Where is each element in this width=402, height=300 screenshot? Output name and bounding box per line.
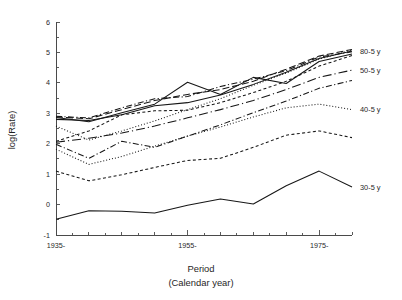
y-axis-title: log(Rate) xyxy=(6,111,17,150)
chart-figure: 6543210-1 1935-1955-1975- 80-5 y50-5 y40… xyxy=(0,0,402,300)
data-series-group xyxy=(56,49,352,219)
series-line-75-5-y xyxy=(56,49,352,118)
y-tick-label: 3 xyxy=(46,109,50,118)
y-axis-tick-labels: 6543210-1 xyxy=(44,18,50,240)
line-chart-svg: 6543210-1 1935-1955-1975- 80-5 y50-5 y40… xyxy=(0,0,402,300)
series-line-80-5-y xyxy=(56,51,352,121)
legend-label-50-5-y: 50-5 y xyxy=(360,66,381,75)
y-tick-label: 0 xyxy=(46,200,50,209)
x-axis-subtitle: (Calendar year) xyxy=(168,277,233,288)
x-axis-title: Period xyxy=(187,263,214,274)
x-axis-ticks xyxy=(56,230,352,235)
x-axis-tick-labels: 1935-1955-1975- xyxy=(47,241,329,250)
legend-label-80-5-y: 80-5 y xyxy=(360,47,381,56)
series-line-60-5-y xyxy=(56,50,352,140)
x-tick-label: 1975- xyxy=(310,241,329,250)
legend-label-40-5-y: 40-5 y xyxy=(360,105,381,114)
y-tick-label: 2 xyxy=(46,139,50,148)
y-tick-label: 6 xyxy=(46,18,50,27)
y-tick-label: -1 xyxy=(44,231,50,240)
series-line-35-5-y xyxy=(56,131,352,181)
x-tick-label: 1935- xyxy=(47,241,66,250)
y-tick-label: 4 xyxy=(46,78,50,87)
y-axis-ticks xyxy=(56,22,60,235)
y-axis: 6543210-1 xyxy=(44,18,60,240)
legend-label-30-5-y: 30-5 y xyxy=(360,183,381,192)
x-tick-label: 1955- xyxy=(178,241,197,250)
y-tick-label: 1 xyxy=(46,170,50,179)
x-axis: 1935-1955-1975- xyxy=(47,230,352,250)
chart-legend: 80-5 y50-5 y40-5 y30-5 y xyxy=(360,47,381,192)
series-line-40-5-y xyxy=(56,104,352,164)
y-tick-label: 5 xyxy=(46,48,50,57)
series-line-70-5-y xyxy=(56,52,352,118)
